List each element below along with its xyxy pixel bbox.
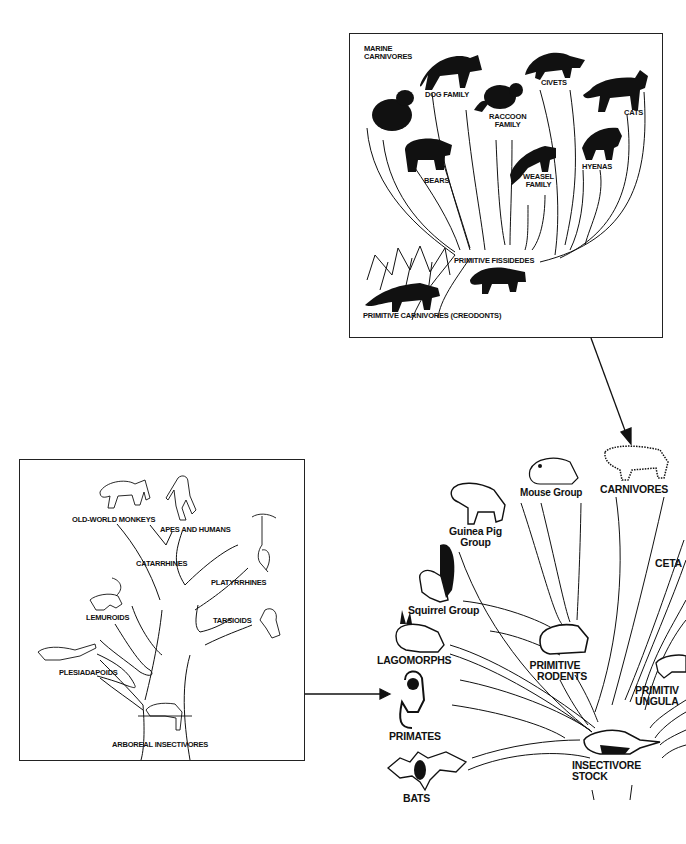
label-line: RODENTS: [523, 671, 587, 682]
rabbit-icon: [396, 610, 444, 652]
label-apes-and-humans: APES AND HUMANS: [160, 526, 230, 534]
label-insectivore-stock: INSECTIVORE STOCK: [572, 760, 641, 782]
label-bats: BATS: [403, 793, 430, 804]
label-guinea-pig-group: Guinea Pig Group: [449, 526, 502, 548]
label-primitive-fissipedes: PRIMITIVE FISSIDEDES: [454, 257, 534, 265]
leopard-icon: [605, 446, 668, 480]
label-cetaceans: CETA: [655, 558, 682, 569]
label-line: FAMILY: [523, 181, 554, 189]
label-weasel-family: WEASEL FAMILY: [523, 173, 554, 189]
label-civets: CIVETS: [541, 79, 567, 87]
bat-icon: [388, 752, 466, 790]
label-bears: BEARS: [424, 177, 449, 185]
label-line: STOCK: [572, 771, 641, 782]
label-line: UNGULA: [635, 696, 679, 707]
shrew-icon: [584, 730, 660, 754]
carnivore-tree-panel: [349, 33, 663, 338]
label-catarrhines: CATARRHINES: [136, 560, 187, 568]
guinea-pig-icon: [451, 483, 505, 524]
label-line: CARNIVORES: [364, 53, 412, 61]
rodent-icon: [540, 625, 588, 654]
label-old-world-monkeys: OLD-WORLD MONKEYS: [72, 516, 155, 524]
label-mouse-group: Mouse Group: [520, 488, 582, 499]
monkey-icon: [400, 671, 424, 728]
label-line: Group: [449, 537, 502, 548]
label-primitive-rodents: PRIMITIVE RODENTS: [523, 660, 587, 682]
mouse-icon: [529, 458, 578, 484]
label-hyenas: HYENAS: [582, 163, 612, 171]
primate-tree-panel: [19, 459, 305, 761]
squirrel-icon: [420, 544, 455, 602]
label-marine-carnivores: MARINE CARNIVORES: [364, 45, 412, 61]
label-line: FAMILY: [489, 121, 526, 129]
label-carnivores: CARNIVORES: [600, 484, 668, 495]
label-lagomorphs: LAGOMORPHS: [377, 655, 451, 666]
label-arboreal-insectivores: ARBOREAL INSECTIVORES: [112, 741, 208, 749]
label-primitive-ungulates: PRIMITIV UNGULA: [635, 685, 679, 707]
label-raccoon-family: RACCOON FAMILY: [489, 113, 526, 129]
label-squirrel-group: Squirrel Group: [408, 605, 479, 616]
label-creodonts: PRIMITIVE CARNIVORES (CREODONTS): [363, 312, 501, 320]
label-plesiadapoids: PLESIADAPOIDS: [59, 669, 118, 677]
label-primates: PRIMATES: [389, 731, 441, 742]
label-platyrrhines: PLATYRRHINES: [211, 579, 266, 587]
label-cats: CATS: [624, 109, 643, 117]
label-dog-family: DOG FAMILY: [425, 91, 469, 99]
label-tarsioids: TARSIOIDS: [213, 617, 251, 625]
ungulate-icon: [656, 655, 686, 678]
label-lemuroids: LEMUROIDS: [86, 614, 129, 622]
